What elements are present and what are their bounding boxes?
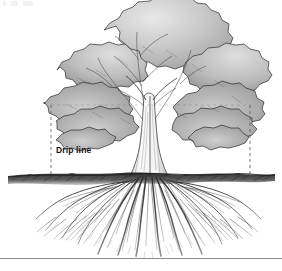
scan-artifact <box>3 1 33 6</box>
bottom-divider <box>0 258 282 259</box>
drip-line-label: Drip line <box>56 145 91 155</box>
tree-illustration <box>0 0 282 271</box>
tree-drip-line-figure: Drip line <box>0 0 282 271</box>
